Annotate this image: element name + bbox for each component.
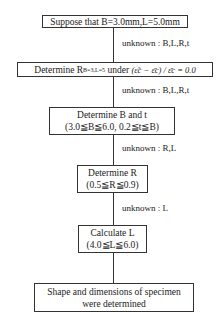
step-suppose-text: Suppose that B=3.0mm,L=5.0mm bbox=[50, 16, 180, 28]
step-determine-r-subscript: B=3,L=5 bbox=[83, 64, 105, 76]
step-determine-r-mid: under bbox=[105, 64, 131, 76]
step-result-box: Shape and dimensions of specimen were de… bbox=[34, 283, 194, 312]
step-determine-r-prefix: Determine R bbox=[34, 64, 83, 76]
connector-label-3: unknown : R,L bbox=[122, 143, 176, 153]
step-determine-r-box: Determine R (0.5≦R≦0.9) bbox=[77, 165, 148, 193]
step-determine-r-range: (0.5≦R≦0.9) bbox=[86, 179, 138, 191]
step-calculate-l-range: (4.0≦L≦6.0) bbox=[87, 239, 139, 251]
step-determine-r-condition: (ε̃c − ε̄c) / ε̄c = 0.0 bbox=[131, 64, 195, 76]
connector-line-3 bbox=[113, 134, 114, 165]
step-determine-b-t-title: Determine B and t bbox=[77, 109, 147, 121]
step-determine-r-initial-box: Determine RB=3,L=5 under (ε̃c − ε̄c) / ε… bbox=[17, 62, 213, 77]
connector-label-1: unknown : B,L,R,t bbox=[122, 38, 189, 48]
step-suppose-box: Suppose that B=3.0mm,L=5.0mm bbox=[42, 15, 188, 28]
connector-label-4: unknown : L bbox=[122, 203, 168, 213]
step-result-line1: Shape and dimensions of specimen bbox=[47, 286, 181, 298]
step-determine-b-t-box: Determine B and t (3.0≦B≦6.0, 0.2≦t≦B) bbox=[49, 107, 175, 135]
connector-line-5 bbox=[113, 252, 114, 283]
step-result-line2: were determined bbox=[82, 298, 146, 310]
connector-line-2 bbox=[113, 76, 114, 107]
connector-line-4 bbox=[113, 192, 114, 225]
step-calculate-l-box: Calculate L (4.0≦L≦6.0) bbox=[78, 225, 147, 253]
connector-label-2: unknown : B,L,R,t bbox=[122, 85, 189, 95]
connector-line-1 bbox=[113, 27, 114, 62]
step-determine-b-t-range: (3.0≦B≦6.0, 0.2≦t≦B) bbox=[65, 121, 159, 133]
step-calculate-l-title: Calculate L bbox=[90, 227, 134, 239]
step-determine-r-title: Determine R bbox=[88, 167, 137, 179]
